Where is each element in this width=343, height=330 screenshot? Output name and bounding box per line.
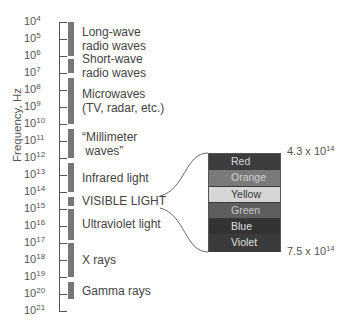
visible-spectrum-box: RedOrangeYellowGreenBlueViolet bbox=[208, 153, 281, 252]
spectrum-color-blue: Blue bbox=[209, 219, 280, 235]
low-frequency-exponent: 14 bbox=[326, 144, 334, 153]
spectrum-color-green: Green bbox=[209, 203, 280, 219]
visible-light-bracket bbox=[0, 0, 343, 330]
low-frequency-mantissa: 4.3 x 10 bbox=[287, 145, 326, 157]
high-frequency-exponent: 14 bbox=[326, 244, 334, 253]
high-frequency-mantissa: 7.5 x 10 bbox=[287, 245, 326, 257]
spectrum-color-yellow: Yellow bbox=[209, 187, 280, 203]
spectrum-color-orange: Orange bbox=[209, 170, 280, 186]
low-frequency-label: 4.3 x 1014 bbox=[287, 145, 334, 157]
spectrum-color-red: Red bbox=[209, 154, 280, 170]
high-frequency-label: 7.5 x 1014 bbox=[287, 245, 334, 257]
spectrum-color-violet: Violet bbox=[209, 235, 280, 251]
